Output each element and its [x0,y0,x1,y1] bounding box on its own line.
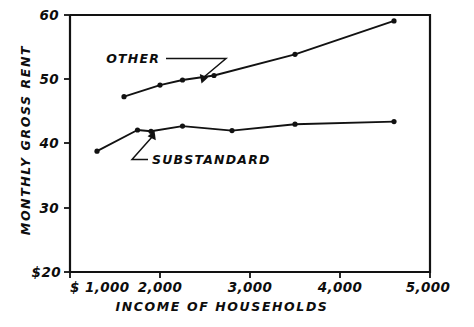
series-other-point [292,52,297,57]
annotation-other-label: OTHER [106,51,160,66]
series-substandard [94,119,396,154]
series-other [121,18,396,99]
chart-figure: 60 50 40 30 $20 $ 1,000 2,000 3,000 4,00… [0,0,474,327]
series-substandard-point [229,128,234,133]
annotation-substandard: SUBSTANDARD [132,131,271,168]
y-axis-tick-labels: 60 50 40 30 $20 [32,7,61,280]
y-tick-label-50: 50 [39,71,59,87]
series-other-point [391,18,396,23]
annotation-other: OTHER [106,51,226,84]
x-tick-label-3000: 3,000 [228,279,273,295]
series-other-point [121,94,126,99]
x-axis-tick-labels: $ 1,000 2,000 3,000 4,000 5,000 [70,279,450,295]
annotation-substandard-label: SUBSTANDARD [152,152,271,167]
series-substandard-point [94,149,99,154]
series-other-point [211,73,216,78]
series-other-line [124,21,394,97]
x-tick-label-1000: $ 1,000 [70,279,130,295]
x-tick-label-2000: 2,000 [138,279,183,295]
series-substandard-point [292,122,297,127]
series-other-point [180,77,185,82]
series-substandard-line [97,122,394,152]
y-tick-label-30: 30 [39,200,59,216]
y-tick-label-60: 60 [39,7,59,23]
x-tick-label-5000: 5,000 [406,279,451,295]
y-axis-title: MONTHLY GROSS RENT [18,45,33,235]
y-tick-label-20: $20 [32,264,61,280]
series-substandard-point [391,119,396,124]
y-tick-label-40: 40 [38,135,59,151]
series-substandard-point [180,124,185,129]
x-axis-title: INCOME OF HOUSEHOLDS [116,299,329,314]
series-substandard-point [135,127,140,132]
annotation-substandard-leader [132,137,152,160]
series-other-point [157,83,162,88]
x-tick-label-4000: 4,000 [317,279,363,295]
